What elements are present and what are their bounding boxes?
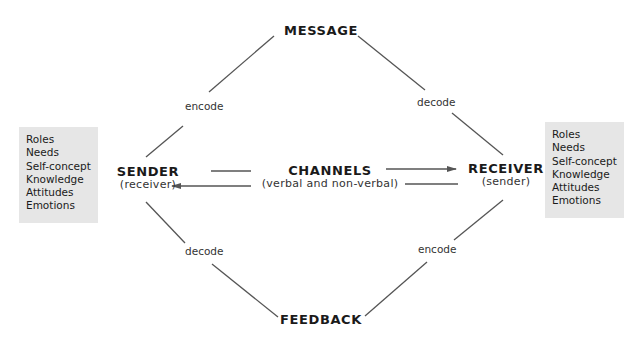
line-sender-message-upper (209, 36, 274, 92)
node-channels: CHANNELS (verbal and non-verbal) (250, 164, 410, 190)
receiver-attr-attitudes: Attitudes (552, 181, 617, 194)
label-decode-receiver: decode (417, 96, 455, 108)
line-sender-message-lower (146, 126, 183, 157)
sender-attr-needs: Needs (26, 146, 91, 159)
channels-subtitle: (verbal and non-verbal) (250, 178, 410, 190)
line-receiver-feedback-upper (454, 200, 503, 240)
receiver-attr-self-concept: Self-concept (552, 155, 617, 168)
line-sender-feedback-lower (212, 264, 278, 317)
receiver-attr-knowledge: Knowledge (552, 168, 617, 181)
node-sender: SENDER (receiver) (100, 165, 196, 191)
label-encode-receiver: encode (418, 243, 456, 255)
node-receiver: RECEIVER (sender) (456, 162, 556, 188)
sender-attr-roles: Roles (26, 133, 91, 146)
sender-attr-emotions: Emotions (26, 199, 91, 212)
channels-title: CHANNELS (250, 164, 410, 178)
line-message-receiver-upper (358, 36, 425, 90)
label-decode-sender: decode (185, 245, 223, 257)
line-sender-feedback-upper (146, 202, 185, 243)
node-message: MESSAGE (276, 24, 366, 38)
receiver-title: RECEIVER (456, 162, 556, 176)
label-encode-sender: encode (185, 100, 223, 112)
sender-attr-self-concept: Self-concept (26, 160, 91, 173)
receiver-attr-emotions: Emotions (552, 194, 617, 207)
receiver-subtitle: (sender) (456, 176, 556, 188)
sender-title: SENDER (100, 165, 196, 179)
sender-attr-attitudes: Attitudes (26, 186, 91, 199)
receiver-attr-needs: Needs (552, 141, 617, 154)
sender-attributes-box: Roles Needs Self-concept Knowledge Attit… (19, 127, 98, 223)
feedback-title: FEEDBACK (276, 313, 366, 327)
sender-attr-knowledge: Knowledge (26, 173, 91, 186)
receiver-attributes-box: Roles Needs Self-concept Knowledge Attit… (545, 122, 624, 218)
receiver-attr-roles: Roles (552, 128, 617, 141)
line-message-receiver-lower (452, 113, 503, 155)
line-receiver-feedback-lower (365, 262, 427, 316)
node-feedback: FEEDBACK (276, 313, 366, 327)
sender-subtitle: (receiver) (100, 179, 196, 191)
message-title: MESSAGE (276, 24, 366, 38)
